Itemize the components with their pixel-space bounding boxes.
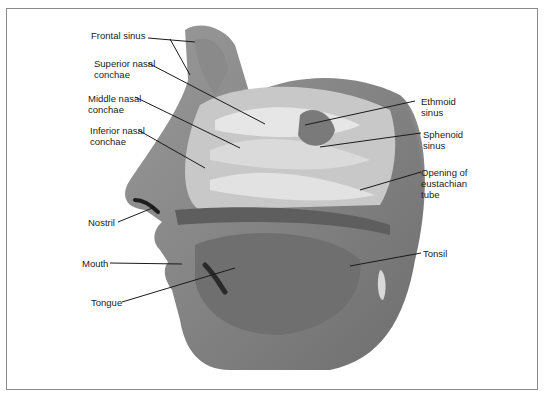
- label-inferior-nasal-conchae: Inferior nasal conchae: [90, 125, 145, 147]
- label-sphenoid-sinus: Sphenoid sinus: [423, 129, 463, 151]
- label-nostril: Nostril: [88, 217, 115, 228]
- label-tongue: Tongue: [91, 297, 122, 308]
- label-mouth: Mouth: [82, 258, 108, 269]
- label-tonsil: Tonsil: [423, 248, 447, 259]
- label-ethmoid-sinus: Ethmoid sinus: [421, 96, 456, 118]
- label-middle-nasal-conchae: Middle nasal conchae: [88, 93, 141, 115]
- label-opening-eustachian-tube: Opening of eustachian tube: [421, 167, 467, 200]
- label-superior-nasal-conchae: Superior nasal conchae: [94, 58, 155, 80]
- label-frontal-sinus: Frontal sinus: [91, 30, 145, 41]
